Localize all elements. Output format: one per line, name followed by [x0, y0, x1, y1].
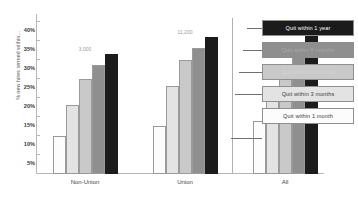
legend-item-quit-within-1-year[interactable]: Quit within 1 year: [262, 20, 354, 36]
y-tick: 20%: [2, 94, 38, 102]
bar: [179, 60, 192, 174]
bar: [205, 37, 218, 174]
bars: [144, 14, 226, 174]
legend: Quit within 1 yearQuit within 9 monthsQu…: [262, 20, 354, 130]
y-tick-mark: [37, 116, 40, 117]
bar: [166, 86, 179, 174]
legend-label: Quit within 1 month: [283, 113, 333, 119]
bar: [153, 126, 166, 174]
leader-line: [239, 72, 262, 73]
x-axis-category-label: Union: [144, 179, 226, 185]
bar: [92, 65, 105, 174]
legend-label: Quit within 1 year: [285, 25, 330, 31]
y-tick-mark: [37, 21, 40, 22]
leader-line: [247, 28, 262, 29]
y-tick-label: 20%: [24, 102, 38, 110]
legend-label: Quit within 3 months: [282, 91, 335, 97]
y-tick-label: 25%: [24, 83, 38, 91]
legend-label: Quit within 9 months: [282, 47, 335, 53]
group-annotation: 11,200: [144, 29, 226, 35]
leader-line: [243, 50, 262, 51]
y-tick: 40%: [2, 18, 38, 26]
bar: [53, 136, 66, 174]
y-tick-label: 15%: [24, 121, 38, 129]
legend-item-quit-within-9-months[interactable]: Quit within 9 months: [262, 42, 354, 58]
bar-group-union: 11,200Union: [144, 14, 226, 174]
group-divider: [232, 18, 233, 174]
y-tick-label: 35%: [24, 45, 38, 53]
y-tick: 10%: [2, 132, 38, 140]
y-tick-mark: [37, 135, 40, 136]
bar: [192, 48, 205, 174]
legend-item-quit-within-1-month[interactable]: Quit within 1 month: [262, 108, 354, 124]
y-tick: 30%: [2, 56, 38, 64]
bar-chart: % new hires termed within… 40%35%30%25%2…: [0, 0, 358, 202]
y-tick-mark: [37, 154, 40, 155]
legend-item-quit-within-6-months[interactable]: Quit within 6 months: [262, 64, 354, 80]
y-tick-mark: [37, 78, 40, 79]
y-tick: 15%: [2, 113, 38, 121]
bar: [66, 105, 79, 174]
y-tick-mark: [37, 59, 40, 60]
y-tick-mark: [37, 40, 40, 41]
y-tick: 5%: [2, 151, 38, 159]
y-tick: 35%: [2, 37, 38, 45]
y-tick-label: 5%: [27, 159, 38, 167]
y-tick-mark: [37, 97, 40, 98]
y-tick-label: 40%: [24, 26, 38, 34]
bar: [79, 79, 92, 174]
bar-group-non-union: 3,000Non-Union: [44, 14, 126, 174]
y-tick-label: 30%: [24, 64, 38, 72]
bars: [44, 14, 126, 174]
legend-item-quit-within-3-months[interactable]: Quit within 3 months: [262, 86, 354, 102]
y-tick-label: 10%: [24, 140, 38, 148]
leader-line: [235, 94, 262, 95]
legend-label: Quit within 6 months: [282, 69, 335, 75]
x-axis-category-label: All: [244, 179, 326, 185]
group-annotation: 3,000: [44, 46, 126, 52]
x-axis-category-label: Non-Union: [44, 179, 126, 185]
y-tick: 25%: [2, 75, 38, 83]
leader-line: [231, 138, 262, 139]
bar: [105, 54, 118, 174]
